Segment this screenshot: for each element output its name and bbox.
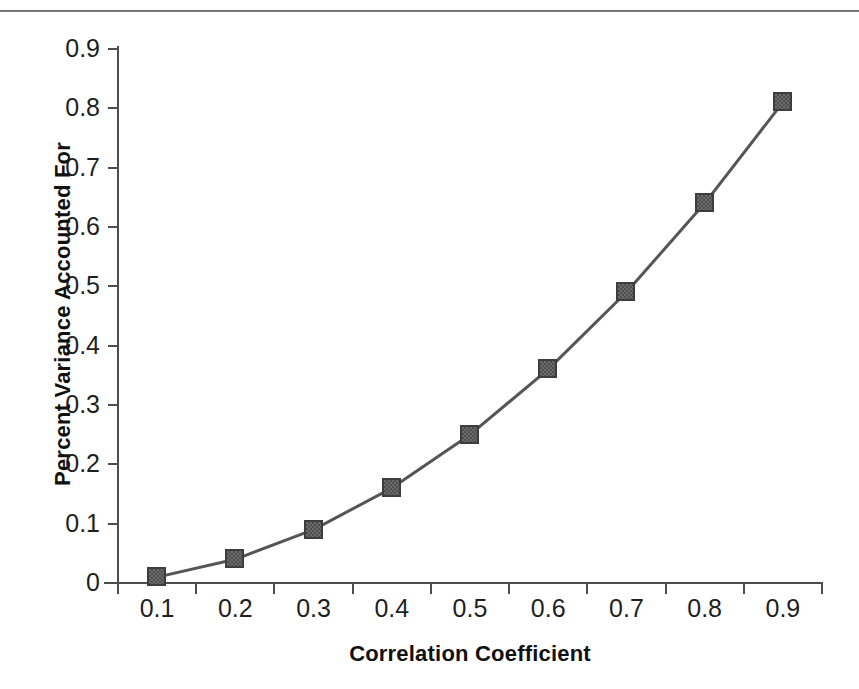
x-axis-tick [352, 583, 354, 594]
y-axis-tick [108, 167, 117, 169]
x-axis-title: Correlation Coefficient [118, 641, 822, 667]
x-axis-tick [195, 583, 197, 594]
y-axis-tick [104, 582, 118, 584]
y-axis-tick-label: 0.9 [40, 36, 100, 61]
y-axis-line [117, 46, 119, 585]
x-axis-tick-label: 0.1 [117, 596, 197, 621]
y-axis-tick-label: 0 [40, 570, 100, 595]
data-point-marker [616, 282, 635, 301]
x-axis-tick [586, 583, 588, 594]
data-point-marker [460, 425, 479, 444]
y-axis-tick [108, 523, 117, 525]
y-axis-title: Percent Variance Accounted For [50, 104, 76, 524]
x-axis-tick [508, 583, 510, 594]
data-point-marker [225, 549, 244, 568]
x-axis-tick-label: 0.7 [586, 596, 666, 621]
y-axis-tick [108, 404, 117, 406]
y-axis-tick [108, 107, 117, 109]
x-axis-tick [665, 583, 667, 594]
x-axis-tick [117, 583, 119, 594]
x-axis-tick [273, 583, 275, 594]
data-point-marker [304, 520, 323, 539]
x-axis-tick-label: 0.4 [352, 596, 432, 621]
y-axis-tick [108, 285, 117, 287]
line-chart: 0.90.80.70.60.50.40.30.20.10 0.10.20.30.… [0, 0, 859, 689]
x-axis-tick-label: 0.8 [665, 596, 745, 621]
x-axis-tick [821, 583, 823, 594]
chart-page: 0.90.80.70.60.50.40.30.20.10 0.10.20.30.… [0, 0, 859, 689]
data-point-marker [695, 193, 714, 212]
data-point-marker [147, 567, 166, 586]
y-axis-tick [108, 48, 117, 50]
y-axis-tick [108, 226, 117, 228]
x-axis-tick-label: 0.6 [508, 596, 588, 621]
x-axis-tick-label: 0.2 [195, 596, 275, 621]
data-point-marker [382, 478, 401, 497]
data-point-marker [773, 92, 792, 111]
data-point-marker [538, 359, 557, 378]
x-axis-tick-label: 0.3 [274, 596, 354, 621]
x-axis-tick-label: 0.9 [743, 596, 823, 621]
y-axis-tick [108, 345, 117, 347]
x-axis-line [117, 582, 823, 584]
x-axis-tick-label: 0.5 [430, 596, 510, 621]
x-axis-tick [743, 583, 745, 594]
x-axis-tick [430, 583, 432, 594]
y-axis-tick [108, 463, 117, 465]
